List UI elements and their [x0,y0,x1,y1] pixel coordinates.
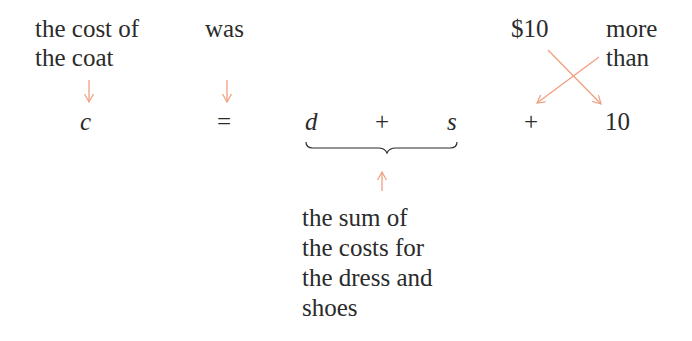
underbrace-icon [306,142,457,153]
arrow-cross-to-ten-icon [548,50,601,104]
diagram-overlay [0,0,692,341]
arrow-cross-to-plus-icon [537,57,599,103]
